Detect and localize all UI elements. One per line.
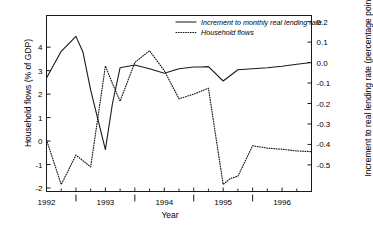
y-left-tick-label: 1 xyxy=(38,114,43,123)
chart-legend: Increment to monthly real lending rateHo… xyxy=(176,18,322,37)
y-left-tick-label: 0 xyxy=(38,137,43,146)
y-left-tick-label: -2 xyxy=(35,184,43,193)
y-axis-left-ticks: -2-101234 xyxy=(35,43,50,193)
x-tick-label: 1994 xyxy=(155,198,173,207)
y-right-tick-label: 0.1 xyxy=(317,38,329,47)
x-tick-label: 1992 xyxy=(38,198,56,207)
y-axis-right-title: Increment to real lending rate (percenta… xyxy=(363,2,373,177)
y-left-tick-label: 3 xyxy=(38,67,43,76)
legend-label: Increment to monthly real lending rate xyxy=(201,18,322,27)
y-right-tick-label: -0.2 xyxy=(317,100,331,109)
y-left-tick-label: 4 xyxy=(38,43,43,52)
y-right-tick-label: -0.5 xyxy=(317,161,331,170)
x-axis-ticks: 19921993199419951996 xyxy=(38,188,297,207)
y-right-tick-label: -0.1 xyxy=(317,79,331,88)
x-axis-title: Year xyxy=(0,210,340,220)
x-tick-label: 1996 xyxy=(273,198,291,207)
plot-frame xyxy=(47,16,312,192)
legend-label: Household flows xyxy=(201,28,254,37)
series-line xyxy=(47,36,312,149)
y-left-tick-label: -1 xyxy=(35,161,43,170)
y-right-tick-label: 0.0 xyxy=(317,59,329,68)
y-right-tick-label: -0.3 xyxy=(317,120,331,129)
y-left-tick-label: 2 xyxy=(38,90,43,99)
y-axis-left-title: Household flows (% of GDP) xyxy=(23,18,33,168)
x-tick-label: 1993 xyxy=(96,198,114,207)
x-tick-label: 1995 xyxy=(214,198,232,207)
y-right-tick-label: -0.4 xyxy=(317,140,331,149)
data-series-group xyxy=(47,36,312,184)
